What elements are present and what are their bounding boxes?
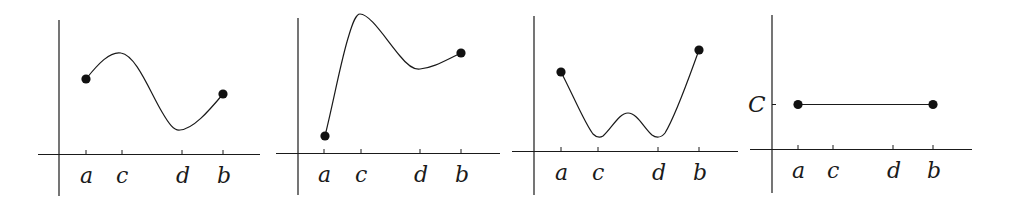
function-curve <box>561 50 699 137</box>
label-c: c <box>592 160 604 185</box>
label-a: a <box>555 160 568 185</box>
label-c: c <box>355 162 367 187</box>
endpoint-b <box>218 89 227 98</box>
label-b: b <box>217 163 231 188</box>
graph-panel-1: a c d b <box>38 20 260 196</box>
endpoint-a <box>320 131 329 140</box>
four-function-graphs-figure: a c d b a c d b <box>0 0 1011 202</box>
label-b: b <box>455 162 469 187</box>
label-d: d <box>887 158 901 183</box>
label-b: b <box>693 160 707 185</box>
label-d: d <box>414 162 428 187</box>
graph-panel-2: a c d b <box>276 14 500 195</box>
endpoint-b <box>928 100 937 109</box>
label-b: b <box>927 158 941 183</box>
label-C-y: C <box>748 91 766 117</box>
function-curve <box>325 14 461 136</box>
endpoint-a <box>556 67 565 76</box>
graph-panel-4: C a c d b <box>748 15 972 193</box>
endpoint-b <box>694 45 703 54</box>
label-d: d <box>652 160 666 185</box>
function-curve <box>86 53 223 130</box>
label-a: a <box>792 158 805 183</box>
label-c: c <box>116 163 128 188</box>
endpoint-b <box>456 48 465 57</box>
label-c: c <box>827 158 839 183</box>
label-d: d <box>176 163 190 188</box>
label-a: a <box>318 162 331 187</box>
endpoint-a <box>793 100 802 109</box>
endpoint-a <box>81 74 90 83</box>
label-a: a <box>80 163 93 188</box>
graph-panel-3: a c d b <box>512 16 738 195</box>
